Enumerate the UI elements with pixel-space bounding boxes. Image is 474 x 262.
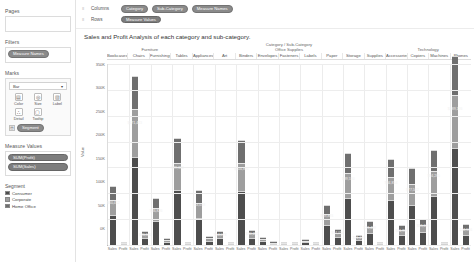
bar-slot-sales[interactable] <box>258 64 269 245</box>
bottom-axis-label-sales[interactable]: Sales <box>278 246 289 262</box>
bar-slot-sales[interactable] <box>279 64 290 245</box>
subcategory-header-appliances[interactable]: Appliances <box>192 53 213 59</box>
bottom-axis-label-sales[interactable]: Sales <box>171 246 182 262</box>
stacked-bar[interactable]: $94,265 <box>431 150 437 245</box>
legend-item-home-office[interactable]: Home Office <box>5 204 71 209</box>
bar-segment-corporate[interactable] <box>452 95 458 147</box>
bar-segment-consumer[interactable] <box>132 157 138 245</box>
bottom-axis-label-profit[interactable]: Profit <box>353 246 364 262</box>
stacked-bar[interactable]: $34,054 <box>335 229 341 245</box>
bar-slot-profit[interactable]: $21,279 <box>354 64 365 245</box>
bottom-axis-label-sales[interactable]: Sales <box>364 246 375 262</box>
subcategory-header-supplies[interactable]: Supplies <box>364 53 385 59</box>
stacked-bar[interactable]: $23,439 <box>367 221 373 245</box>
stacked-bar[interactable]: $77,562 <box>409 168 415 245</box>
legend-item-consumer[interactable]: Consumer <box>5 191 71 196</box>
bar-segment-consumer[interactable] <box>238 191 244 245</box>
bottom-axis-label-sales[interactable]: Sales <box>428 246 439 262</box>
bar-segment-consumer[interactable] <box>399 235 405 245</box>
subcategory-header-accessories[interactable]: Accessories <box>385 53 406 59</box>
pages-shelf-dropzone[interactable] <box>5 16 71 32</box>
bottom-axis-label-sales[interactable]: Sales <box>107 246 118 262</box>
category-header-office-supplies[interactable]: Office Supplies <box>193 47 386 52</box>
bar-slot-sales[interactable]: $94,265 <box>428 64 439 245</box>
bottom-axis-label-profit[interactable]: Profit <box>246 246 257 262</box>
bar-slot-profit[interactable]: $34,054 <box>332 64 343 245</box>
bottom-axis-label-sales[interactable]: Sales <box>257 246 268 262</box>
bottom-axis-label-sales[interactable]: Sales <box>342 246 353 262</box>
bar-slot-sales[interactable]: $77,562 <box>407 64 418 245</box>
bottom-axis-label-profit[interactable]: Profit <box>332 246 343 262</box>
bar-slot-profit[interactable] <box>183 64 194 245</box>
filter-pill-measure-names[interactable]: Measure Names <box>8 50 49 58</box>
subcategory-header-labels[interactable]: Labels <box>299 53 320 59</box>
bar-segment-consumer[interactable] <box>153 221 159 245</box>
bar-segment-consumer[interactable] <box>174 190 180 245</box>
rows-pill-measure-values[interactable]: Measure Values <box>121 16 161 24</box>
bar-slot-sales[interactable]: $189,126 <box>450 64 461 245</box>
bottom-axis-label-sales[interactable]: Sales <box>214 246 225 262</box>
subcategory-header-storage[interactable]: Storage <box>342 53 363 59</box>
plot-canvas[interactable]: $60,452$171,423$26,590$46,826$99,374$53,… <box>107 64 471 246</box>
bar-slot-sales[interactable]: $39,893 <box>322 64 333 245</box>
stacked-bar[interactable]: $39,893 <box>324 205 330 245</box>
bottom-axis-label-profit[interactable]: Profit <box>225 246 236 262</box>
bottom-axis-label-profit[interactable]: Profit <box>375 246 386 262</box>
stacked-bar[interactable] <box>260 237 266 245</box>
bar-segment-consumer[interactable] <box>217 238 223 245</box>
bottom-axis-label-profit[interactable]: Profit <box>268 246 279 262</box>
subcategory-header-art[interactable]: Art <box>213 53 234 59</box>
subcategory-header-furnishings[interactable]: Furnishings <box>149 53 170 59</box>
columns-shelf-tray[interactable]: Category Sub-Category Measure Names <box>121 5 468 13</box>
bar-segment-consumer[interactable] <box>196 218 202 245</box>
bar-slot-profit[interactable] <box>268 64 279 245</box>
bar-segment-home-office[interactable] <box>132 76 138 110</box>
bottom-axis-label-profit[interactable]: Profit <box>396 246 407 262</box>
bottom-axis-label-profit[interactable]: Profit <box>182 246 193 262</box>
marks-button-size[interactable]: ◎ Size <box>29 93 46 106</box>
marks-pill-segment[interactable]: Segment <box>17 124 44 132</box>
bottom-axis-label-profit[interactable]: Profit <box>417 246 428 262</box>
columns-pill-measure-names[interactable]: Measure Names <box>192 5 233 13</box>
filters-shelf-dropzone[interactable]: Measure Names <box>5 47 71 63</box>
bar-slot-sales[interactable]: $53,018 <box>193 64 204 245</box>
bar-segment-home-office[interactable] <box>196 190 202 204</box>
bar-segment-home-office[interactable] <box>409 168 415 184</box>
bottom-axis-label-profit[interactable]: Profit <box>310 246 321 262</box>
bar-slot-profit[interactable]: $41,937 <box>396 64 407 245</box>
stacked-bar[interactable]: $26,590 <box>142 231 148 245</box>
bar-slot-profit[interactable]: $55,618 <box>418 64 429 245</box>
bar-slot-sales[interactable]: $171,423 <box>129 64 140 245</box>
marks-button-label[interactable]: ▧ Label <box>49 93 66 106</box>
stacked-bar[interactable] <box>206 236 212 245</box>
bottom-axis-label-profit[interactable]: Profit <box>161 246 172 262</box>
stacked-bar[interactable] <box>164 238 170 245</box>
bar-segment-consumer[interactable] <box>324 225 330 245</box>
rows-shelf-tray[interactable]: Measure Values <box>121 16 468 24</box>
bar-slot-sales[interactable]: $14,078 <box>215 64 226 245</box>
stacked-bar[interactable]: $21,279 <box>356 235 362 245</box>
bottom-axis-label-sales[interactable]: Sales <box>128 246 139 262</box>
bar-segment-consumer[interactable] <box>345 198 351 245</box>
subcategory-header-fasteners[interactable]: Fasteners <box>278 53 299 59</box>
bar-segment-consumer[interactable] <box>452 148 458 245</box>
bottom-axis-label-sales[interactable]: Sales <box>193 246 204 262</box>
columns-pill-sub-category[interactable]: Sub-Category <box>152 5 188 13</box>
bar-slot-profit[interactable] <box>204 64 215 245</box>
bottom-axis-label-sales[interactable]: Sales <box>150 246 161 262</box>
subcategory-header-binders[interactable]: Binders <box>235 53 256 59</box>
bar-slot-sales[interactable] <box>300 64 311 245</box>
bar-segment-consumer[interactable] <box>431 196 437 245</box>
bar-slot-sales[interactable]: $84,854 <box>386 64 397 245</box>
bottom-axis-label-profit[interactable]: Profit <box>139 246 150 262</box>
bar-segment-home-office[interactable] <box>153 198 159 208</box>
bar-slot-profit[interactable]: $26,590 <box>140 64 151 245</box>
bar-slot-profit[interactable]: $44,516 <box>460 64 471 245</box>
bar-segment-consumer[interactable] <box>388 200 394 245</box>
marks-button-detail[interactable]: ∴ Detail <box>10 108 27 121</box>
bar-segment-consumer[interactable] <box>367 233 373 245</box>
category-header-technology[interactable]: Technology <box>385 47 471 52</box>
stacked-bar[interactable]: $46,826 <box>153 198 159 245</box>
bar-segment-home-office[interactable] <box>345 153 351 173</box>
bar-slot-sales[interactable]: $99,374 <box>172 64 183 245</box>
